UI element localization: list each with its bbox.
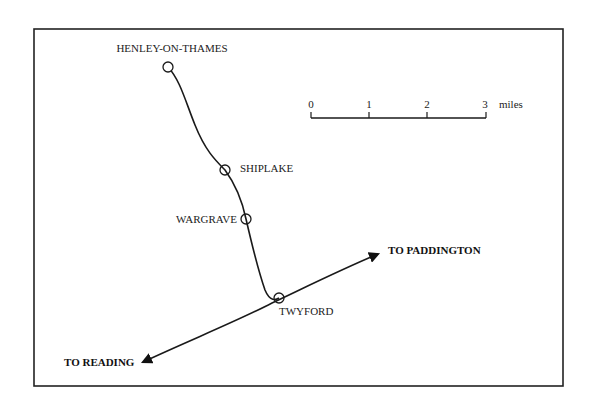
station-marker-icon: [163, 62, 173, 72]
main-line: [143, 254, 378, 362]
station-shiplake: SHIPLAKE: [220, 162, 293, 175]
destination-paddington: TO PADDINGTON: [388, 244, 481, 256]
scale-tick-label: 3: [482, 98, 488, 110]
railway-map: HENLEY-ON-THAMES SHIPLAKE WARGRAVE TWYFO…: [0, 0, 592, 411]
station-twyford: TWYFORD: [274, 293, 333, 317]
scale-tick-label: 2: [424, 98, 430, 110]
station-label: SHIPLAKE: [240, 162, 293, 174]
scale-bar: 0 1 2 3 miles: [308, 98, 523, 118]
station-label: TWYFORD: [279, 305, 333, 317]
scale-tick-label: 0: [308, 98, 314, 110]
station-henley: HENLEY-ON-THAMES: [116, 42, 227, 72]
destination-reading: TO READING: [64, 356, 135, 368]
station-wargrave: WARGRAVE: [176, 213, 251, 225]
scale-tick-label: 1: [366, 98, 372, 110]
scale-unit-label: miles: [499, 98, 523, 110]
station-label: HENLEY-ON-THAMES: [116, 42, 227, 54]
map-frame: [34, 29, 563, 386]
henley-branch-line: [168, 67, 279, 300]
station-label: WARGRAVE: [176, 213, 237, 225]
